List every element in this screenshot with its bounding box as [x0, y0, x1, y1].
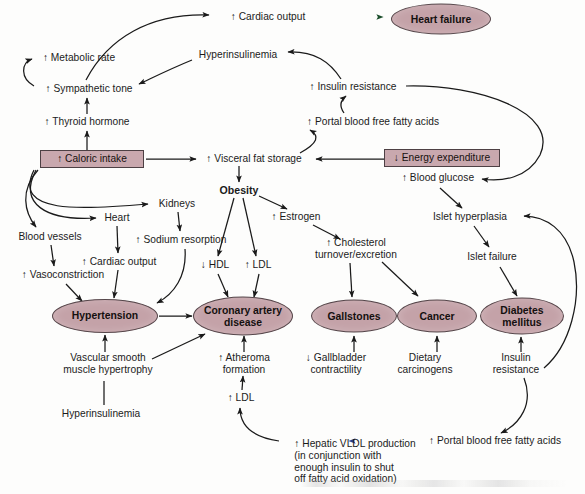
edge-portal-ffa-to-insulin-resistance [341, 96, 346, 113]
edge-cholesterol-to-cancer [382, 262, 418, 296]
node-gallstones[interactable]: Gallstones [311, 300, 397, 333]
node-hdl: ↓ HDL [201, 259, 229, 271]
edge-blood-glucose-to-islet-hyperplasia [440, 188, 462, 208]
edge-obesity-to-hdl [218, 198, 234, 256]
node-ldl-top: ↑ LDL [245, 259, 272, 271]
node-atheroma-formation: ↑ Atheroma formation [218, 352, 270, 376]
node-heart-failure[interactable]: Heart failure [391, 4, 491, 35]
node-hyperinsulinemia-bottom: Hyperinsulinemia [62, 408, 140, 420]
node-coronary-artery-disease[interactable]: Coronary artery disease [193, 297, 293, 336]
edge-cardiac-output-to-hypertension [114, 270, 118, 298]
edge-hepatic-vldl-to-ldl [240, 408, 279, 441]
node-heart: Heart [104, 212, 129, 224]
edge-caloric-to-kidneys [30, 170, 148, 208]
edge-sympathetic-to-metabolic-rate [24, 59, 34, 86]
edge-hdl-to-coronary [218, 274, 228, 297]
edge-caloric-to-blood-vessels [26, 170, 38, 227]
edge-islet-hyperplasia-to-islet-failure [474, 226, 489, 247]
edge-ldl-to-coronary [254, 274, 259, 297]
edge-blood-vessels-to-vasoconstriction [51, 245, 54, 266]
edge-insulin-resistance-bottom-to-islet-hyperplasia [524, 216, 576, 368]
edge-obesity-to-estrogen [259, 196, 287, 209]
node-dietary-carcinogens: Dietary carcinogens [397, 352, 452, 376]
edge-vascular-hypertrophy-to-coronary [152, 334, 205, 359]
node-islet-hyperplasia: Islet hyperplasia [433, 211, 507, 223]
node-portal-blood-free-fatty-acids-bottom: ↑ Portal blood free fatty acids [429, 435, 561, 447]
node-sodium-resorption: ↑ Sodium resorption [136, 234, 227, 246]
node-cardiac-output-left: ↑ Cardiac output [82, 256, 157, 268]
edge-sympathetic-to-cardiac-output [86, 15, 209, 80]
edge-insulin-resistance-to-hyperinsulinemia [288, 52, 341, 79]
pathophysiology-flowchart: ↑ Caloric intake ↓ Energy expenditure He… [0, 0, 585, 494]
node-obesity: Obesity [220, 184, 259, 196]
node-estrogen: ↑ Estrogen [272, 211, 321, 223]
edge-cholesterol-to-gallstones [350, 263, 352, 297]
node-energy-expenditure[interactable]: ↓ Energy expenditure [384, 149, 500, 167]
edge-vasoconstriction-to-hypertension [66, 284, 82, 301]
node-blood-glucose: ↑ Blood glucose [402, 172, 474, 184]
node-visceral-fat-storage: ↑ Visceral fat storage [206, 153, 301, 165]
node-insulin-resistance-bottom: Insulin resistance [493, 352, 540, 376]
node-sympathetic-tone: ↑ Sympathetic tone [46, 83, 133, 95]
edge-hyperinsulinemia-to-sympathetic [139, 60, 192, 84]
node-cancer[interactable]: Cancer [397, 300, 477, 333]
edge-insulin-resistance-bottom-to-portal-ffa [501, 378, 527, 433]
node-blood-vessels: Blood vessels [18, 231, 81, 243]
edge-islet-failure-to-diabetes [500, 267, 517, 296]
node-hypertension[interactable]: Hypertension [52, 299, 158, 333]
node-portal-blood-free-fatty-acids-top: ↑ Portal blood free fatty acids [307, 116, 439, 128]
edge-caloric-to-heart [31, 170, 96, 218]
node-hepatic-vldl-production: ↑ Hepatic VLDL production (in conjunctio… [294, 438, 415, 485]
edge-heart-to-cardiac-output [117, 226, 118, 253]
node-thyroid-hormone: ↑ Thyroid hormone [44, 116, 129, 128]
node-caloric-intake[interactable]: ↑ Caloric intake [40, 150, 144, 168]
scan-artifact [300, 480, 568, 487]
node-insulin-resistance-top: ↑ Insulin resistance [309, 81, 396, 93]
node-diabetes-mellitus[interactable]: Diabetes mellitus [480, 298, 564, 335]
edge-sodium-to-hypertension [157, 249, 185, 303]
edge-obesity-to-ldl [243, 198, 256, 256]
node-hyperinsulinemia-top: Hyperinsulinemia [199, 49, 277, 61]
node-islet-failure: Islet failure [467, 251, 517, 263]
edge-kidneys-to-sodium [178, 212, 180, 231]
node-cardiac-output-top: ↑ Cardiac output [231, 11, 306, 23]
node-gallbladder-contractility: ↓ Gallbladder contractility [306, 352, 366, 376]
node-vasoconstriction: ↑ Vasoconstriction [22, 269, 104, 281]
node-metabolic-rate: ↑ Metabolic rate [43, 52, 115, 64]
node-kidneys: Kidneys [159, 198, 195, 210]
edge-visceral-fat-to-portal-ffa [300, 130, 316, 153]
edge-ldl-bottom-to-atheroma [242, 376, 243, 390]
node-cholesterol-turnover-excretion: ↑ Cholesterol turnover/excretion [315, 237, 397, 261]
node-ldl-bottom: ↑ LDL [228, 392, 255, 404]
node-vascular-smooth-muscle-hypertrophy: Vascular smooth muscle hypertrophy [63, 352, 152, 376]
